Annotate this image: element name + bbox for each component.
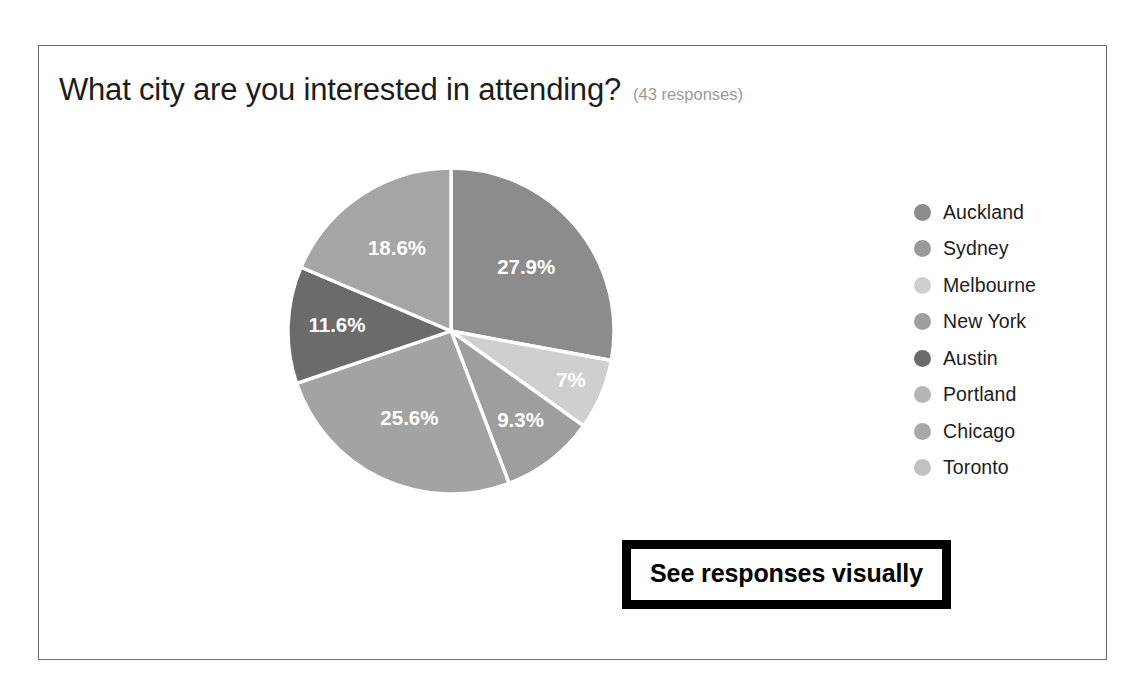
legend-item-label: Toronto [943,456,1009,479]
legend-item-label: Chicago [943,420,1015,443]
legend-item-label: Sydney [943,237,1009,260]
pie-chart: 27.9%7%9.3%25.6%11.6%18.6% [286,166,616,496]
legend-item-label: Melbourne [943,274,1036,297]
legend-swatch-icon [914,313,931,330]
pie-slice-label: 25.6% [380,406,438,429]
legend-item[interactable]: Auckland [914,194,1094,231]
survey-result-card: What city are you interested in attendin… [38,45,1107,660]
legend-swatch-icon [914,240,931,257]
pie-slice-label: 11.6% [309,313,366,336]
legend-swatch-icon [914,204,931,221]
legend-item[interactable]: Portland [914,377,1094,414]
pie-slice-label: 7% [556,368,586,391]
annotation-callout: See responses visually [622,540,951,609]
legend-swatch-icon [914,459,931,476]
legend-item-label: New York [943,310,1026,333]
pie-slice-label: 9.3% [497,408,544,431]
legend-swatch-icon [914,350,931,367]
legend-item[interactable]: Toronto [914,450,1094,487]
legend-item-label: Austin [943,347,998,370]
legend-swatch-icon [914,386,931,403]
legend-swatch-icon [914,277,931,294]
pie-slice-label: 18.6% [368,236,426,259]
legend-item[interactable]: New York [914,304,1094,341]
legend-swatch-icon [914,423,931,440]
chart-legend: AucklandSydneyMelbourneNew YorkAustinPor… [914,194,1094,486]
pie-slice-label: 27.9% [497,255,555,278]
annotation-label: See responses visually [650,559,923,587]
legend-item[interactable]: Austin [914,340,1094,377]
chart-area: 27.9%7%9.3%25.6%11.6%18.6% AucklandSydne… [39,46,1106,659]
legend-item[interactable]: Chicago [914,413,1094,450]
legend-item[interactable]: Melbourne [914,267,1094,304]
legend-item[interactable]: Sydney [914,231,1094,268]
legend-item-label: Portland [943,383,1016,406]
legend-item-label: Auckland [943,201,1024,224]
